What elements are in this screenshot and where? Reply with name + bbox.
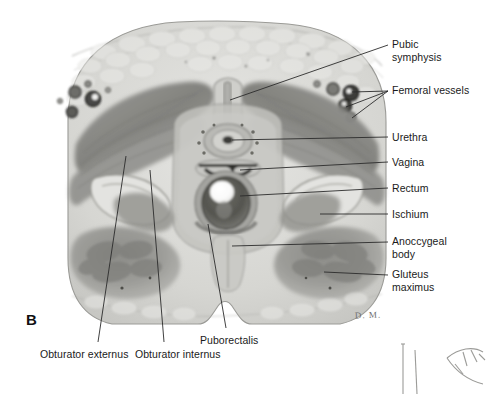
label-obturator-internus: Obturator internus <box>135 348 221 361</box>
label-gluteus-maximus: Gluteusmaximus <box>392 268 434 293</box>
label-anococcygeal-body: Anoccygealbody <box>392 235 447 260</box>
label-pubic-symphysis: Pubicsymphysis <box>392 38 441 63</box>
label-rectum: Rectum <box>392 182 428 195</box>
label-ischium: Ischium <box>392 208 429 221</box>
label-obturator-externus: Obturator externus <box>40 348 128 361</box>
anococcygeal-body <box>211 235 245 292</box>
label-urethra: Urethra <box>392 131 427 144</box>
rectum <box>195 171 257 235</box>
artist-signature: D. M. <box>355 310 382 321</box>
label-puborectalis: Puborectalis <box>200 334 258 347</box>
figure-page: Pubicsymphysis Femoral vessels Urethra V… <box>0 0 489 398</box>
label-vagina: Vagina <box>392 156 424 169</box>
scan-artifact-sketch <box>385 340 489 398</box>
label-femoral-vessels: Femoral vessels <box>392 84 469 97</box>
panel-letter-b: B <box>26 311 37 328</box>
